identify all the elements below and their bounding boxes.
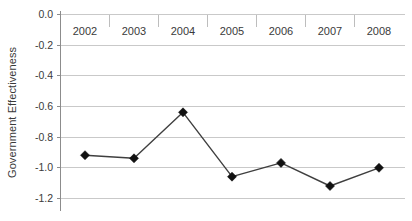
y-tick-label-1: -0.2 <box>35 39 53 51</box>
x-tick-label-2008: 2008 <box>367 25 391 37</box>
gridlines-group <box>61 15 405 199</box>
data-point-2006 <box>277 158 286 167</box>
data-point-2008 <box>375 163 384 172</box>
y-tick-label-4: -0.8 <box>35 131 53 143</box>
y-tick-label-5: -1.0 <box>35 161 53 173</box>
x-tick-label-2007: 2007 <box>318 25 342 37</box>
x-tick-label-2004: 2004 <box>171 25 195 37</box>
y-axis-title: Government Effectiveness <box>6 46 18 178</box>
data-markers-group <box>81 108 384 191</box>
x-tick-labels-group: 2002 2003 2004 2005 2006 2007 2008 <box>73 25 391 37</box>
y-tick-labels-group: 0.0 -0.2 -0.4 -0.6 -0.8 -1.0 -1.2 <box>35 8 53 204</box>
y-tick-label-0: 0.0 <box>38 8 53 20</box>
line-chart: 0.0 -0.2 -0.4 -0.6 -0.8 -1.0 -1.2 2002 2… <box>0 0 412 221</box>
data-point-2002 <box>81 151 90 160</box>
x-tick-label-2005: 2005 <box>220 25 244 37</box>
data-point-2007 <box>326 182 335 191</box>
y-axis-group <box>57 11 61 211</box>
y-tick-label-6: -1.2 <box>35 192 53 204</box>
y-tick-label-2: -0.4 <box>35 69 53 81</box>
x-tick-label-2002: 2002 <box>73 25 97 37</box>
y-tick-label-3: -0.6 <box>35 100 53 112</box>
chart-container: 0.0 -0.2 -0.4 -0.6 -0.8 -1.0 -1.2 2002 2… <box>0 0 412 221</box>
x-tick-label-2003: 2003 <box>122 25 146 37</box>
x-tick-label-2006: 2006 <box>269 25 293 37</box>
